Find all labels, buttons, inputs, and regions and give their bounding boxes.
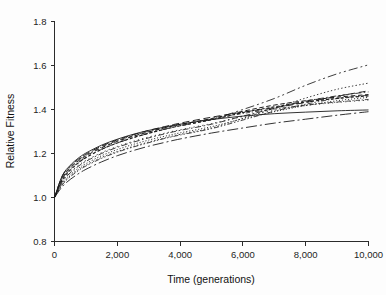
- data-series-group: [55, 65, 369, 198]
- x-tick-label: 6,000: [231, 249, 255, 260]
- series-population-3: [55, 91, 369, 198]
- x-tick-label: 8,000: [294, 249, 318, 260]
- series-population-12: [55, 99, 369, 197]
- y-tick-label: 1.6: [33, 60, 46, 71]
- y-tick-label: 0.8: [33, 236, 46, 247]
- y-tick-label: 1.8: [33, 16, 46, 27]
- relative-fitness-line-chart: 0.81.01.21.41.61.8 02,0004,0006,0008,000…: [0, 0, 386, 295]
- series-population-5: [55, 95, 369, 198]
- series-population-1: [55, 65, 369, 198]
- figure-container: 0.81.01.21.41.61.8 02,0004,0006,0008,000…: [0, 0, 386, 295]
- series-population-11: [55, 100, 369, 197]
- x-axis-title: Time (generations): [167, 273, 255, 285]
- y-axis-ticks: 0.81.01.21.41.61.8: [33, 16, 54, 247]
- x-axis-ticks: 02,0004,0006,0008,00010,000: [52, 242, 383, 260]
- y-tick-label: 1.4: [33, 104, 46, 115]
- y-tick-label: 1.0: [33, 192, 46, 203]
- series-population-6: [55, 95, 369, 197]
- y-axis-title: Relative Fitness: [4, 94, 16, 169]
- x-tick-label: 10,000: [354, 249, 383, 260]
- x-tick-label: 4,000: [168, 249, 192, 260]
- y-tick-label: 1.2: [33, 148, 46, 159]
- x-tick-label: 2,000: [105, 249, 129, 260]
- plot-axes: [55, 22, 369, 242]
- x-tick-label: 0: [52, 249, 57, 260]
